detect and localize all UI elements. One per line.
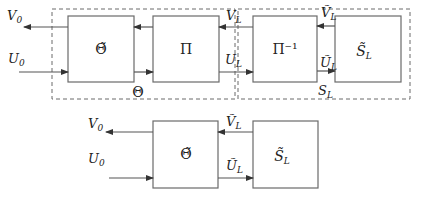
bottom-sl-tilde-block: [253, 121, 318, 188]
u0-label: U0: [8, 51, 25, 68]
v0-label: V0: [7, 8, 22, 25]
bottom-diagram: Θ̃ S̃L V0 U0 ṼL ŨL: [88, 114, 318, 188]
ul-label: UL: [225, 52, 242, 69]
vl-label: VL: [226, 8, 241, 25]
bottom-v0-label: V0: [88, 116, 103, 133]
bottom-theta-tilde-label: Θ̃: [180, 146, 191, 162]
bottom-vl-tilde-label: ṼL: [226, 114, 241, 131]
sl-tilde-block: [335, 16, 401, 82]
top-diagram: Θ̃ Π Π⁻¹ S̃L Θ SL V0 U0 VL UL ṼL ŨL: [7, 5, 410, 100]
bottom-u0-label: U0: [88, 151, 105, 168]
pi-inverse-label: Π⁻¹: [272, 41, 297, 57]
theta-tilde-label: Θ̃: [95, 41, 106, 57]
block-diagram: Θ̃ Π Π⁻¹ S̃L Θ SL V0 U0 VL UL ṼL ŨL Θ̃ S…: [0, 0, 421, 199]
vl-tilde-label: ṼL: [321, 5, 336, 22]
pi-label: Π: [180, 41, 192, 57]
theta-group-label: Θ: [132, 84, 143, 100]
sl-group-label: SL: [318, 83, 333, 100]
bottom-ul-tilde-label: ŨL: [226, 158, 243, 175]
